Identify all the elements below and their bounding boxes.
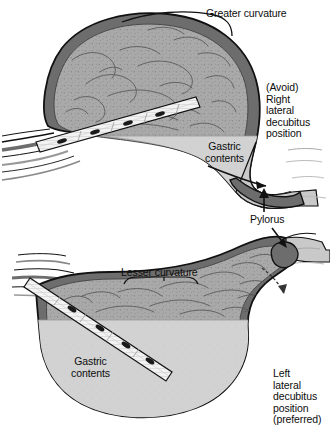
gastric-top-line-2: contents <box>205 152 244 164</box>
label-gastric-contents-top: Gastriccontents <box>205 141 244 164</box>
label-pylorus-top: Pylorus <box>250 214 284 226</box>
gastric-bottom-line-1: Gastric <box>74 355 107 367</box>
label-right-lateral-decubitus-position: (Avoid)Rightlateraldecubitusposition <box>266 82 310 140</box>
avoid-line-4: decubitus <box>266 116 310 128</box>
left-line-5: (preferred) <box>273 413 322 425</box>
gastric-top-line-1: Gastric <box>208 140 241 152</box>
label-left-lateral-decubitus-position: Leftlateraldecubitusposition(preferred) <box>273 368 322 426</box>
label-lesser-curvature: Lesser curvature <box>121 267 198 279</box>
left-line-1: Left <box>273 367 290 379</box>
label-greater-curvature: Greater curvature <box>206 8 287 20</box>
avoid-line-2: Right <box>266 93 290 105</box>
gastric-bottom-line-2: contents <box>71 367 110 379</box>
avoid-line-5: position <box>266 127 301 139</box>
left-line-4: position <box>273 402 308 414</box>
avoid-line-1: (Avoid) <box>266 81 298 93</box>
avoid-line-3: lateral <box>266 104 294 116</box>
left-line-2: lateral <box>273 379 301 391</box>
left-line-3: decubitus <box>273 390 317 402</box>
label-gastric-contents-bottom: Gastriccontents <box>71 356 110 379</box>
